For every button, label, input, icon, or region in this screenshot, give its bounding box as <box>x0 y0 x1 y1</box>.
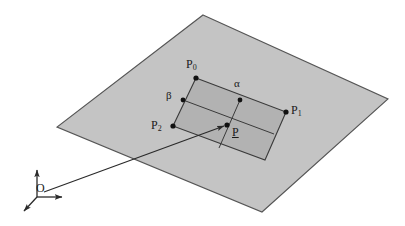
point-P1-dot <box>283 109 288 114</box>
point-alpha-dot <box>238 98 243 103</box>
point-P0-dot <box>193 75 198 80</box>
beta-label: β <box>166 90 172 101</box>
point-P-dot <box>224 122 229 127</box>
label-P1: P1 <box>291 104 302 116</box>
diagram-canvas <box>0 0 405 226</box>
label-P2: P2 <box>151 119 162 131</box>
point-P2-dot <box>170 123 175 128</box>
point-beta-dot <box>181 98 186 103</box>
geometry-diagram-figure: P0 P1 P2 P α β O <box>0 0 405 226</box>
label-P: P <box>232 126 239 138</box>
origin-label: O <box>36 182 45 194</box>
axis-depth <box>24 197 37 211</box>
label-P0: P0 <box>186 58 197 70</box>
alpha-label: α <box>234 78 240 89</box>
